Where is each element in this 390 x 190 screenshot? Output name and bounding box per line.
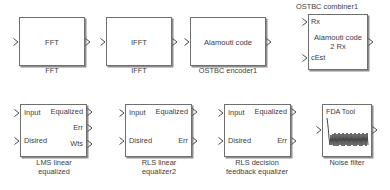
block-ifft-center-label: IFFT xyxy=(107,37,171,46)
output-port-arrow-icon[interactable] xyxy=(192,137,197,144)
block-ostbc-combiner1-center-label: Alamouti code 2 Rx xyxy=(309,33,367,51)
input-port-arrow-icon[interactable] xyxy=(316,126,321,133)
input-port-arrow-icon[interactable] xyxy=(302,54,307,61)
block-ifft-caption: IFFT xyxy=(106,67,172,76)
block-ostbc-combiner1-caption: OSTBC combiner1 xyxy=(296,2,358,11)
block-noise-filter-caption: Noise filter xyxy=(313,159,381,168)
port-label-err: Err xyxy=(241,137,287,145)
block-ifft[interactable]: IFFT xyxy=(106,17,172,66)
port-label-wts: Wts xyxy=(37,140,83,148)
input-port-arrow-icon[interactable] xyxy=(184,38,189,45)
output-port-arrow-icon[interactable] xyxy=(372,126,377,133)
port-label-equalized: Equalized xyxy=(37,108,83,116)
block-ostbc-encoder1-center-label: Alamouti code xyxy=(191,37,265,46)
block-lms-linear-equalized-caption: LMS linear equalized xyxy=(12,159,96,176)
port-label-err: Err xyxy=(37,124,83,132)
output-port-arrow-icon[interactable] xyxy=(87,140,92,147)
output-port-arrow-icon[interactable] xyxy=(291,108,296,115)
input-port-arrow-icon[interactable] xyxy=(218,137,223,144)
input-port-arrow-icon[interactable] xyxy=(119,109,124,116)
block-rls-linear-equalizer2-caption: RLS linear equalizer2 xyxy=(117,159,201,176)
output-port-arrow-icon[interactable] xyxy=(85,38,90,45)
output-port-arrow-icon[interactable] xyxy=(368,38,373,45)
input-port-arrow-icon[interactable] xyxy=(100,38,105,45)
output-port-arrow-icon[interactable] xyxy=(192,108,197,115)
port-label-err: Err xyxy=(142,137,188,145)
input-port-arrow-icon[interactable] xyxy=(13,38,18,45)
output-port-arrow-icon[interactable] xyxy=(172,38,177,45)
output-port-arrow-icon[interactable] xyxy=(266,38,271,45)
input-port-arrow-icon[interactable] xyxy=(119,137,124,144)
output-port-arrow-icon[interactable] xyxy=(291,137,296,144)
port-label-cest: cEst xyxy=(311,54,325,62)
block-noise-filter[interactable]: FDA Tool xyxy=(322,104,372,157)
block-ostbc-encoder1[interactable]: Alamouti code xyxy=(190,17,266,66)
output-port-arrow-icon[interactable] xyxy=(87,108,92,115)
block-fft-caption: FFT xyxy=(19,67,85,76)
block-rls-decision-feedback-equalizer-caption: RLS decision feedback equalizer xyxy=(209,159,305,176)
input-port-arrow-icon[interactable] xyxy=(218,109,223,116)
output-port-arrow-icon[interactable] xyxy=(87,124,92,131)
block-diagram-canvas: FFT FFT IFFT IFFT Alamouti code OSTBC en… xyxy=(0,0,390,190)
block-fft[interactable]: FFT xyxy=(19,17,85,66)
block-ostbc-encoder1-caption: OSTBC encoder1 xyxy=(186,67,270,76)
port-label-rx: Rx xyxy=(311,18,320,26)
input-port-arrow-icon[interactable] xyxy=(14,137,19,144)
input-port-arrow-icon[interactable] xyxy=(14,109,19,116)
port-label-equalized: Equalized xyxy=(241,108,287,116)
block-fft-center-label: FFT xyxy=(20,37,84,46)
input-port-arrow-icon[interactable] xyxy=(302,18,307,25)
port-label-equalized: Equalized xyxy=(142,108,188,116)
filter-response-waveform-icon xyxy=(324,115,372,159)
